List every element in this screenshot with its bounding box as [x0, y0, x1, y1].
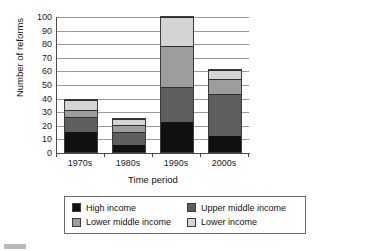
y-tick-label: 100 [28, 13, 52, 22]
y-tick-label: 90 [28, 26, 52, 35]
bar-segment-2000s-lomid [209, 79, 241, 94]
y-tick-label: 60 [28, 67, 52, 76]
x-tick-mark [200, 153, 201, 157]
bar-2000s [208, 69, 242, 153]
chart-legend: High income Upper middle income Lower mi… [64, 196, 306, 234]
bar-segment-1990s-upmid [161, 87, 193, 122]
gridline [57, 58, 249, 59]
plot-area [56, 17, 248, 153]
bar-1990s [160, 16, 194, 153]
bar-segment-1970s-lomid [65, 110, 97, 117]
bar-1980s [112, 118, 146, 153]
bar-1970s [64, 99, 98, 153]
gridline [57, 31, 249, 32]
legend-swatch-lower-middle-income [72, 218, 81, 227]
x-tick-mark [104, 153, 105, 157]
x-tick-mark [56, 153, 57, 157]
y-tick-label: 40 [28, 94, 52, 103]
legend-swatch-lower-income [187, 218, 196, 227]
y-tick-label: 70 [28, 53, 52, 62]
legend-item-high-income: High income [72, 201, 183, 215]
y-tick-label: 30 [28, 108, 52, 117]
x-tick-mark [152, 153, 153, 157]
bar-segment-2000s-hi [209, 136, 241, 152]
x-tick-label-2000s: 2000s [194, 158, 254, 168]
y-tick-label: 50 [28, 81, 52, 90]
gridline [57, 44, 249, 45]
bar-segment-1990s-low [161, 17, 193, 46]
bar-segment-1980s-upmid [113, 132, 145, 146]
bar-segment-1970s-hi [65, 132, 97, 152]
bar-segment-1970s-low [65, 100, 97, 110]
x-axis-title: Time period [56, 174, 250, 185]
legend-swatch-upper-middle-income [187, 203, 196, 212]
bar-segment-1970s-upmid [65, 117, 97, 132]
legend-item-lower-middle-income: Lower middle income [72, 216, 183, 230]
bar-segment-2000s-low [209, 70, 241, 78]
y-tick-label: 80 [28, 40, 52, 49]
bar-segment-1980s-hi [113, 145, 145, 152]
y-tick-label: 10 [28, 135, 52, 144]
bar-segment-1980s-lomid [113, 125, 145, 132]
legend-label-lower-middle-income: Lower middle income [86, 217, 171, 227]
legend-label-upper-middle-income: Upper middle income [201, 203, 286, 213]
page-corner-mark [4, 244, 26, 249]
x-axis-line [56, 153, 250, 154]
y-tick-label: 20 [28, 121, 52, 130]
legend-item-lower-income: Lower income [187, 216, 298, 230]
legend-label-lower-income: Lower income [201, 217, 257, 227]
legend-swatch-high-income [72, 203, 81, 212]
gridline [57, 17, 249, 18]
legend-label-high-income: High income [86, 203, 136, 213]
legend-item-upper-middle-income: Upper middle income [187, 201, 298, 215]
bar-segment-2000s-upmid [209, 94, 241, 136]
bar-segment-1990s-lomid [161, 46, 193, 87]
x-tick-mark [248, 153, 249, 157]
y-axis-ticks: 0102030405060708090100 [22, 17, 52, 153]
bar-segment-1990s-hi [161, 122, 193, 152]
y-tick-label: 0 [28, 149, 52, 158]
chart-figure: Number of reforms 0102030405060708090100… [0, 0, 369, 251]
